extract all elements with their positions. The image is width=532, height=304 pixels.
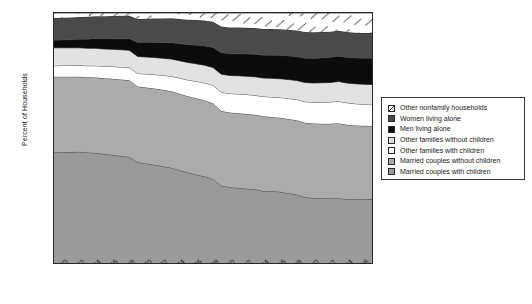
x-tick-mark: [138, 263, 139, 264]
legend-item[interactable]: Married couples without children: [388, 156, 524, 167]
legend-item[interactable]: Men living alone: [388, 124, 524, 135]
y-tick-mark: [53, 213, 54, 214]
x-tick-mark-minor: [364, 263, 365, 264]
x-tick-mark-minor: [213, 263, 214, 264]
x-tick-mark-minor: [297, 263, 298, 264]
stacked-area-chart-figure: Percent of Households 010203040506070809…: [0, 0, 532, 304]
x-tick-mark: [339, 263, 340, 264]
x-tick-mark: [255, 263, 256, 264]
legend-item[interactable]: Other nonfamily households: [388, 103, 524, 114]
x-tick-mark-minor: [196, 263, 197, 264]
light-gray-swatch: [388, 137, 395, 144]
x-tick-mark-minor: [146, 263, 147, 264]
y-tick-mark: [53, 163, 54, 164]
y-tick-mark: [53, 188, 54, 189]
legend-item-label: Other families without children: [400, 136, 494, 144]
y-tick-mark: [53, 238, 54, 239]
y-tick-mark: [53, 113, 54, 114]
mid-gray-swatch: [388, 168, 395, 175]
legend-item[interactable]: Other families without children: [388, 135, 524, 146]
x-tick-mark: [205, 263, 206, 264]
x-tick-mark-minor: [246, 263, 247, 264]
area-series-svg: [54, 13, 372, 263]
x-tick-mark: [355, 263, 356, 264]
legend-item[interactable]: Women living alone: [388, 114, 524, 125]
y-axis-title: Percent of Households: [21, 50, 28, 170]
x-tick-mark-minor: [79, 263, 80, 264]
x-tick-mark-minor: [313, 263, 314, 264]
x-tick-mark: [121, 263, 122, 264]
legend-item-label: Married couples without children: [400, 157, 500, 165]
legend-item[interactable]: Other families with children: [388, 145, 524, 156]
white-swatch: [388, 147, 395, 154]
x-tick-mark: [322, 263, 323, 264]
x-tick-mark-minor: [113, 263, 114, 264]
legend-item-label: Other nonfamily households: [400, 104, 487, 112]
x-tick-mark: [221, 263, 222, 264]
y-tick-mark: [53, 63, 54, 64]
legend-item-label: Married couples with children: [400, 168, 491, 176]
x-tick-mark: [54, 263, 55, 264]
x-tick-mark-minor: [263, 263, 264, 264]
y-tick-mark: [53, 13, 54, 14]
x-tick-mark: [87, 263, 88, 264]
x-tick-mark: [288, 263, 289, 264]
x-tick-mark-minor: [62, 263, 63, 264]
x-tick-mark-minor: [330, 263, 331, 264]
x-tick-mark: [154, 263, 155, 264]
y-tick-mark: [53, 138, 54, 139]
dark-gray-swatch: [388, 115, 395, 122]
x-tick-mark: [188, 263, 189, 264]
y-tick-mark: [53, 88, 54, 89]
hatched-swatch: [388, 105, 395, 112]
x-tick-mark: [104, 263, 105, 264]
x-tick-mark-minor: [96, 263, 97, 264]
legend-item-label: Other families with children: [400, 147, 484, 155]
x-tick-mark-minor: [280, 263, 281, 264]
mid-light-gray-swatch: [388, 158, 395, 165]
x-tick-mark: [171, 263, 172, 264]
black-swatch: [388, 126, 395, 133]
x-tick-mark-minor: [163, 263, 164, 264]
x-tick-mark-minor: [230, 263, 231, 264]
plot-area: 0102030405060708090100 19601962196419661…: [53, 12, 373, 264]
legend-item-label: Women living alone: [400, 115, 461, 123]
y-tick-mark: [53, 38, 54, 39]
legend-item[interactable]: Married couples with children: [388, 167, 524, 178]
x-tick-mark: [305, 263, 306, 264]
legend-item-label: Men living alone: [400, 125, 451, 133]
x-tick-mark: [238, 263, 239, 264]
x-tick-mark-minor: [347, 263, 348, 264]
x-tick-mark: [71, 263, 72, 264]
x-tick-mark: [272, 263, 273, 264]
x-tick-mark: [372, 263, 373, 264]
x-tick-mark-minor: [180, 263, 181, 264]
x-tick-mark-minor: [129, 263, 130, 264]
chart-legend: Other nonfamily householdsWomen living a…: [381, 97, 525, 180]
